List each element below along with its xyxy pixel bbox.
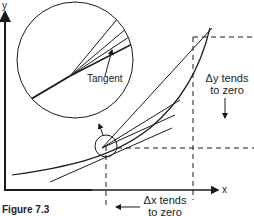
dy-annotation: Δy tends to zero [205,72,249,96]
dx-text-line2: to zero [140,206,190,216]
tangent-label: Tangent [87,73,123,85]
x-axis-label: x [222,184,227,196]
figure-caption: Figure 7.3 [2,204,49,216]
dy-text-line2: to zero [205,84,249,96]
dx-annotation: Δx tends to zero [140,194,190,216]
magnify-arrow [99,124,103,135]
dy-text-line1: Δy tends [205,72,249,84]
dx-text-line1: Δx tends [140,194,190,206]
y-axis-label: y [2,0,7,12]
inset-magnified-view [17,2,140,118]
tangent-limit-diagram [0,0,254,216]
